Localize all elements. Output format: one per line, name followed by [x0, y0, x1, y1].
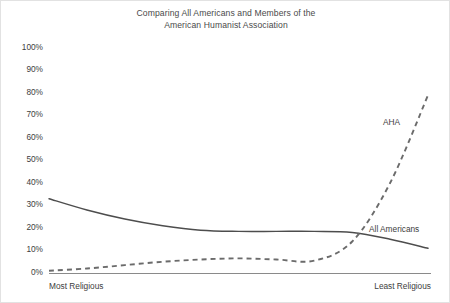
chart-container: Comparing All Americans and Members of t… [0, 0, 450, 303]
x-axis-label-least-religious: Least Religious [374, 282, 431, 291]
series-label-all-americans: All Americans [369, 225, 419, 234]
series-line-aha [49, 95, 428, 271]
x-axis-label-most-religious: Most Religious [49, 282, 103, 291]
series-label-aha: AHA [383, 118, 400, 127]
plot-area [1, 1, 450, 303]
